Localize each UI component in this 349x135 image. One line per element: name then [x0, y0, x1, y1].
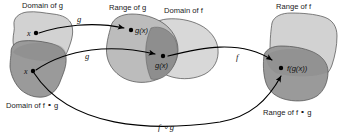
- label-point-fgx: f(g(x)): [287, 64, 308, 73]
- label-range-of-f: Range of f: [276, 2, 312, 11]
- label-point-gx-upper: g(x): [135, 26, 149, 35]
- point-dot-fgx: [279, 66, 283, 70]
- label-map-f-comp-g: f ∘ g: [158, 122, 175, 132]
- label-point-x-upper: x: [26, 29, 31, 38]
- label-domain-of-f-comp-g: Domain of f ∘ g: [6, 101, 58, 110]
- center-set-group: [106, 14, 218, 82]
- label-point-x-lower: x: [23, 67, 28, 76]
- point-dot-x-lower: [31, 69, 35, 73]
- composition-diagram: Domain of g Range of g Domain of f Range…: [0, 0, 349, 135]
- label-map-f: f: [236, 52, 240, 62]
- label-point-gx-lower: g(x): [155, 61, 169, 70]
- point-dot-gx-lower: [161, 54, 165, 58]
- point-dot-gx-upper: [129, 28, 133, 32]
- label-domain-of-g: Domain of g: [22, 1, 63, 10]
- diagram-canvas: Domain of g Range of g Domain of f Range…: [0, 0, 349, 135]
- label-map-g-lower: g: [85, 51, 90, 61]
- label-domain-of-f: Domain of f: [164, 6, 204, 15]
- left-set-group: [10, 12, 73, 97]
- label-map-g-upper: g: [77, 14, 82, 24]
- point-dot-x-upper: [34, 31, 38, 35]
- label-range-of-g: Range of g: [109, 3, 146, 12]
- arrow-f-comp-g: [34, 73, 281, 126]
- label-range-of-f-comp-g: Range of f ∘ g: [263, 108, 311, 117]
